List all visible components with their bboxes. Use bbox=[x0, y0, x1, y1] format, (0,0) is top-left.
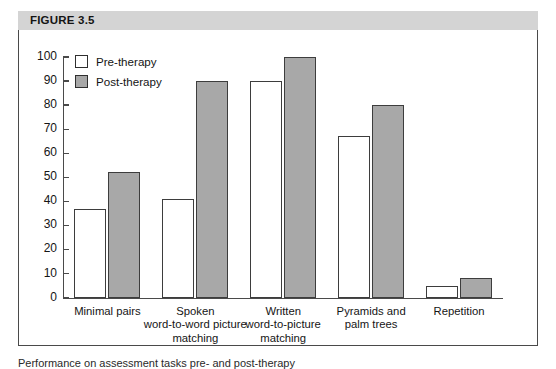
legend-label-post-therapy: Post-therapy bbox=[96, 75, 162, 88]
figure-number-label: FIGURE 3.5 bbox=[30, 14, 95, 26]
legend-entry-pre-therapy: Pre-therapy bbox=[75, 51, 162, 71]
figure-caption: Performance on assessment tasks pre- and… bbox=[18, 357, 538, 369]
legend-entry-post-therapy: Post-therapy bbox=[75, 71, 162, 91]
figure-header-band: FIGURE 3.5 bbox=[18, 11, 538, 30]
gray-square-icon bbox=[75, 75, 88, 88]
white-square-icon bbox=[75, 55, 88, 68]
chart-legend: Pre-therapy Post-therapy bbox=[75, 51, 162, 91]
legend-label-pre-therapy: Pre-therapy bbox=[96, 55, 157, 68]
